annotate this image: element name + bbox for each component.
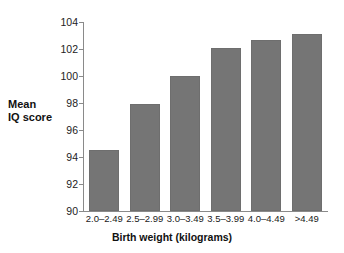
- y-axis-tick-label: 90: [0, 205, 78, 217]
- x-axis-tick-label: 2.5–2.99: [125, 213, 166, 224]
- plot-area: [84, 22, 327, 211]
- x-axis-tick-label: 3.0–3.49: [165, 213, 206, 224]
- y-axis-tick-label: 100: [0, 70, 78, 82]
- y-axis-tick-label: 92: [0, 178, 78, 190]
- y-axis-tick-label: 96: [0, 124, 78, 136]
- y-axis-tick-mark: [79, 211, 84, 212]
- bar: [292, 34, 322, 211]
- bar: [251, 40, 281, 211]
- x-axis-tick-label: >4.49: [287, 213, 328, 224]
- y-axis-tick-label: 104: [0, 16, 78, 28]
- x-axis-title: Birth weight (kilograms): [0, 231, 344, 243]
- y-axis-tick-label: 98: [0, 97, 78, 109]
- x-axis-line: [83, 211, 328, 212]
- y-axis-title-line-2: IQ score: [8, 111, 70, 124]
- y-axis-tick-label: 102: [0, 43, 78, 55]
- bar: [130, 104, 160, 211]
- y-axis-tick-label: 94: [0, 151, 78, 163]
- bar: [211, 48, 241, 211]
- bar-chart: Mean IQ score 9092949698100102104 2.0–2.…: [0, 0, 344, 253]
- x-axis-tick-label: 3.5–3.99: [206, 213, 247, 224]
- x-axis-tick-label: 2.0–2.49: [84, 213, 125, 224]
- bar: [89, 150, 119, 211]
- bar: [170, 76, 200, 211]
- x-axis-tick-label: 4.0–4.49: [246, 213, 287, 224]
